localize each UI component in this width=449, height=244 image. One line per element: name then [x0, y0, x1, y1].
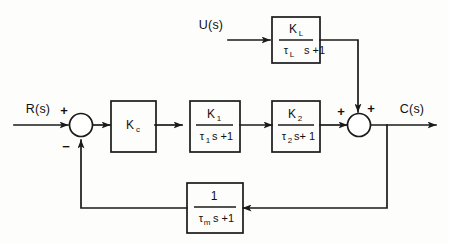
output-junction-forward-sign: + [337, 104, 345, 119]
process-block-2-denominator: τ [282, 130, 287, 142]
controller-block-numerator-subscript: c [136, 125, 140, 134]
block-diagram-svg: K L τ L s +1 K c K 1 τ 1 s +1 K 2 τ 2 s+… [0, 0, 449, 244]
process-block-2-numerator: K [288, 107, 296, 121]
load-block-numerator-subscript: L [299, 29, 304, 38]
output-junction [348, 114, 371, 137]
measurement-block-numerator: 1 [211, 189, 218, 203]
load-block-denominator-subscript: L [290, 50, 295, 59]
measurement-block-denominator-tail: s +1 [213, 212, 234, 224]
process-block-1-numerator-subscript: 1 [217, 114, 222, 123]
disturbance-input-label: U(s) [199, 18, 223, 32]
load-block-denominator: τ [284, 44, 289, 56]
process-block-1-numerator: K [207, 107, 215, 121]
process-block-2-numerator-subscript: 2 [298, 114, 303, 123]
load-block-denominator-tail: s +1 [304, 44, 325, 56]
output-label: C(s) [400, 102, 424, 116]
error-junction [70, 114, 93, 137]
error-junction-reference-sign: + [60, 103, 68, 118]
error-junction-feedback-sign: − [62, 139, 70, 154]
reference-input-label: R(s) [26, 102, 50, 116]
block-diagram-canvas: K L τ L s +1 K c K 1 τ 1 s +1 K 2 τ 2 s+… [0, 0, 449, 244]
process-block-1-denominator-tail: s +1 [212, 130, 233, 142]
process-block-2-denominator-tail: s+ 1 [294, 130, 315, 142]
output-junction-load-sign: + [367, 101, 375, 116]
controller-block-numerator: K [126, 118, 134, 132]
wire-measurement-to-error-junction [81, 140, 187, 208]
process-block-1-denominator-subscript: 1 [206, 136, 211, 145]
process-block-2-denominator-subscript: 2 [288, 136, 293, 145]
measurement-block-denominator-subscript: m [204, 218, 211, 227]
load-block-numerator: K [289, 22, 297, 36]
process-block-1-denominator: τ [200, 130, 205, 142]
wire-load-to-output-junction [320, 40, 358, 112]
